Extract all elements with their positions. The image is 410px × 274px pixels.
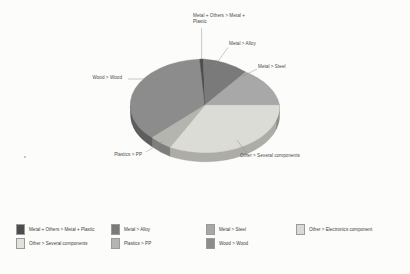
legend-swatch-icon	[206, 224, 215, 235]
legend-item-label: Other > Electronics component	[309, 227, 372, 233]
legend-item-label: Metal + Others > Metal + Plastic	[29, 227, 95, 233]
legend-item-label: Metal > Steel	[219, 227, 246, 233]
legend-item-pp[interactable]: Plastics > PP	[111, 238, 151, 249]
scan-speck	[24, 156, 26, 158]
legend-item-label: Other > Several components	[29, 241, 88, 247]
legend-item-several-components[interactable]: Other > Several components	[16, 238, 88, 249]
legend-item-label: Metal > Alloy	[124, 227, 150, 233]
slice-label-metal-plastic: Metal + Others > Metal + Plastic	[193, 13, 255, 25]
legend-item-label: Wood > Wood	[219, 241, 248, 247]
legend-item-label: Plastics > PP	[124, 241, 151, 247]
slice-label-pp: Plastics > PP	[98, 152, 142, 158]
chart-legend: Metal + Others > Metal + Plastic Metal >…	[16, 224, 398, 258]
chart-page: Metal + Others > Metal + Plastic Metal >…	[0, 0, 410, 274]
legend-swatch-icon	[111, 238, 120, 249]
legend-row: Other > Several components Plastics > PP…	[16, 238, 398, 251]
slice-label-steel: Metal > Steel	[258, 64, 308, 70]
legend-item-electronics[interactable]: Other > Electronics component	[296, 224, 372, 235]
legend-row: Metal + Others > Metal + Plastic Metal >…	[16, 224, 398, 237]
legend-swatch-icon	[16, 224, 25, 235]
legend-item-steel[interactable]: Metal > Steel	[206, 224, 246, 235]
legend-item-metal-plastic[interactable]: Metal + Others > Metal + Plastic	[16, 224, 95, 235]
legend-swatch-icon	[16, 238, 25, 249]
pie-chart: Metal + Others > Metal + Plastic Metal >…	[0, 0, 410, 210]
legend-item-alloy[interactable]: Metal > Alloy	[111, 224, 150, 235]
legend-swatch-icon	[296, 224, 305, 235]
pie-chart-graphic	[0, 0, 410, 210]
legend-swatch-icon	[206, 238, 215, 249]
slice-label-alloy: Metal > Alloy	[229, 41, 279, 47]
slice-label-wood: Wood > Wood	[78, 75, 122, 81]
legend-swatch-icon	[111, 224, 120, 235]
slice-label-several-components: Other > Several components	[240, 153, 320, 159]
legend-item-wood[interactable]: Wood > Wood	[206, 238, 248, 249]
